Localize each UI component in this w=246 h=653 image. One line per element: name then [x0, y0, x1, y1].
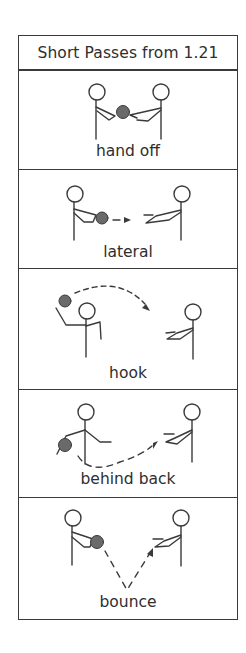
- passer-head-icon: [65, 510, 81, 526]
- behind-back-figure: [57, 404, 200, 467]
- arrow-head-icon: [153, 441, 158, 449]
- hand-off-figure: [89, 84, 169, 139]
- arrow-head-icon: [124, 217, 131, 223]
- hook-figure: [56, 286, 201, 359]
- lateral-figure: [67, 186, 190, 240]
- passer-head-icon: [79, 303, 95, 319]
- receiver-head-icon: [174, 186, 190, 202]
- ball-icon: [91, 536, 104, 549]
- pass-figures: [0, 0, 246, 653]
- passer-head-icon: [78, 404, 94, 420]
- ball-icon: [59, 439, 72, 452]
- receiver-head-icon: [173, 510, 189, 526]
- ball-icon: [117, 106, 130, 119]
- ball-icon: [59, 295, 71, 307]
- receiver-head-icon: [185, 304, 201, 320]
- passer-head-icon: [67, 186, 83, 202]
- bounce-figure: [65, 510, 189, 590]
- arrow-head-icon: [142, 304, 150, 311]
- passer-head-icon: [89, 84, 105, 100]
- receiver-head-icon: [184, 404, 200, 420]
- ball-icon: [96, 212, 108, 224]
- receiver-head-icon: [153, 84, 169, 100]
